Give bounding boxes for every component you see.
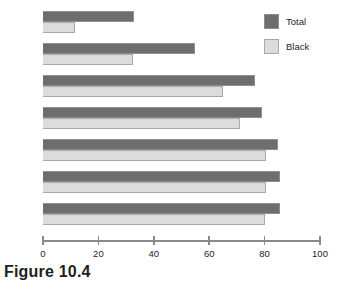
bar-black	[43, 214, 265, 225]
bar-total	[43, 139, 278, 150]
bar-black	[43, 22, 75, 33]
x-axis-tick	[153, 236, 155, 245]
x-axis-tick-label: 40	[149, 248, 160, 259]
bar-total	[43, 203, 280, 214]
bar-total	[43, 11, 134, 22]
x-axis-tick	[264, 236, 266, 245]
legend-label-total: Total	[286, 16, 306, 27]
x-axis-tick	[319, 236, 321, 245]
x-axis-tick	[208, 236, 210, 245]
figure-caption: Figure 10.4	[4, 263, 91, 281]
legend-swatch-black-icon	[264, 39, 279, 54]
x-axis-tick-label: 0	[40, 248, 45, 259]
bar-total	[43, 107, 262, 118]
x-axis-tick	[42, 236, 44, 245]
bar-black	[43, 118, 240, 129]
x-axis-tick-label: 20	[93, 248, 104, 259]
bar-black	[43, 182, 266, 193]
legend-swatch-total-icon	[264, 14, 279, 29]
legend-label-black: Black	[286, 41, 309, 52]
bar-total	[43, 75, 255, 86]
x-axis-tick-label: 100	[312, 248, 328, 259]
x-axis-tick-label: 60	[204, 248, 215, 259]
figure-container: 1950 1970 1990 2000 2005 2006	[0, 0, 343, 291]
bar-total	[43, 171, 280, 182]
bar-total	[43, 43, 195, 54]
bar-black	[43, 54, 133, 65]
x-axis-tick-label: 80	[259, 248, 270, 259]
x-axis-line	[43, 240, 320, 242]
bar-black	[43, 150, 266, 161]
chart-plot-area: 1950 1970 1990 2000 2005 2006	[0, 0, 343, 250]
bar-black	[43, 86, 223, 97]
x-axis-tick	[98, 236, 100, 245]
